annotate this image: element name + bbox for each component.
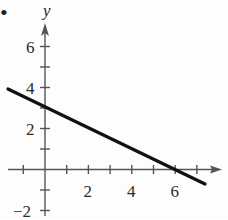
y-tick-label-6: 6: [26, 38, 35, 57]
x-tick-label-2: 2: [84, 182, 93, 201]
x-tick-label-6: 6: [171, 182, 180, 201]
y-axis: [40, 32, 50, 216]
chart-plot: y 2 4 6 6 4 2 −2: [0, 0, 228, 219]
y-axis-label: y: [41, 1, 51, 20]
y-tick-label-4: 4: [26, 79, 35, 98]
x-tick-label-4: 4: [127, 182, 136, 201]
y-tick-label-2: 2: [26, 120, 35, 139]
y-tick-label-neg2: −2: [13, 202, 31, 220]
